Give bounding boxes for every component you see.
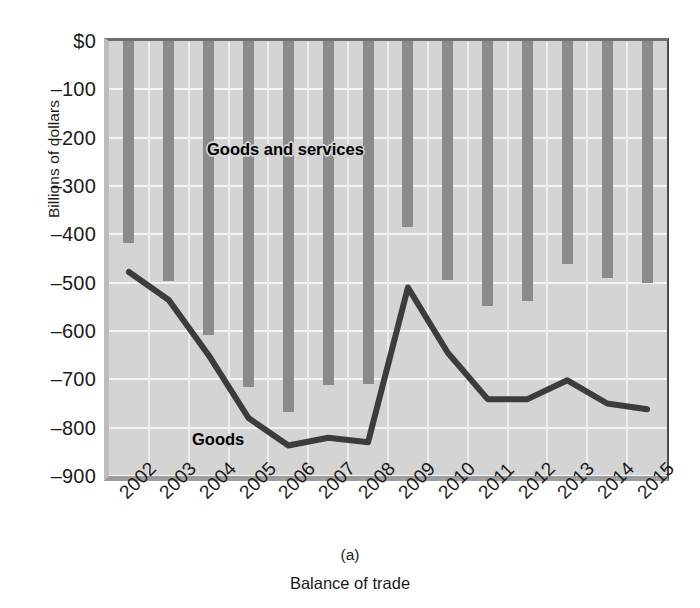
x-tick-label: 2003 <box>155 458 201 504</box>
x-tick-label: 2005 <box>235 458 281 504</box>
x-tick-label: 2012 <box>514 458 560 504</box>
figure-caption: Balance of trade <box>0 574 700 593</box>
x-tick-label: 2010 <box>434 458 480 504</box>
x-tick-label: 2014 <box>593 458 639 504</box>
x-tick-label: 2015 <box>633 458 679 504</box>
x-axis-tick-labels: 2002200320042005200620072008200920102011… <box>0 0 700 608</box>
x-tick-label: 2002 <box>115 458 161 504</box>
x-tick-label: 2008 <box>354 458 400 504</box>
x-tick-label: 2007 <box>314 458 360 504</box>
panel-label: (a) <box>0 546 700 564</box>
figure-root: Billions of dollars $0–100–200–300–400–5… <box>0 0 700 608</box>
x-tick-label: 2011 <box>474 459 519 504</box>
x-tick-label: 2013 <box>553 458 599 504</box>
x-tick-label: 2004 <box>195 458 241 504</box>
x-tick-label: 2006 <box>274 458 320 504</box>
x-tick-label: 2009 <box>394 458 440 504</box>
